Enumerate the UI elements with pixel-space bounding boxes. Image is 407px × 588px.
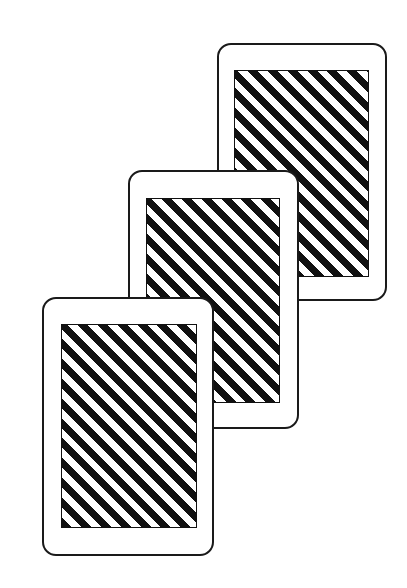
card-front: [42, 297, 214, 556]
card-illustration: [0, 0, 407, 588]
striped-card-back-pattern: [61, 324, 197, 528]
